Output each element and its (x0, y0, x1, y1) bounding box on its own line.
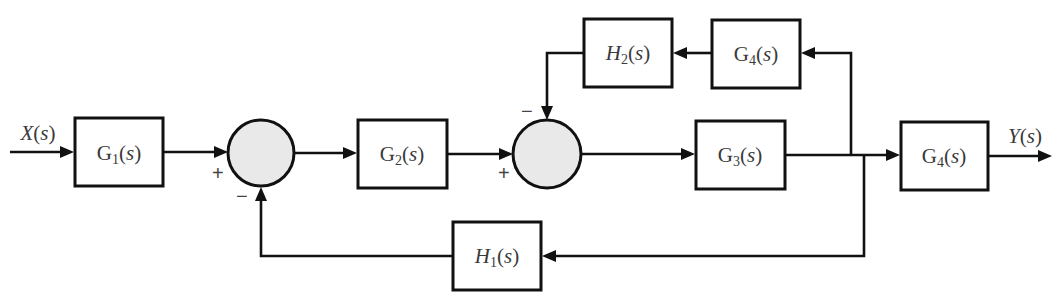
wire-branch-g4fb (812, 53, 851, 155)
block-g3: G3(s) (696, 121, 785, 189)
sign-plus: + (212, 162, 224, 184)
block-g2: G2(s) (358, 120, 447, 188)
output-label: Y(s) (1008, 124, 1042, 148)
sign-plus: + (498, 162, 510, 184)
block-g4-feedback: G4(s) (712, 20, 800, 88)
svg-text:G4(s): G4(s) (734, 42, 778, 68)
arrow-head-icon (673, 47, 687, 59)
svg-text:G4(s): G4(s) (922, 144, 966, 170)
arrow-head-icon (542, 250, 556, 262)
arrow-head-icon (214, 146, 228, 158)
svg-text:G3(s): G3(s) (718, 143, 762, 169)
svg-text:H1(s): H1(s) (474, 244, 519, 270)
sign-minus: − (521, 100, 533, 122)
block-h2: H2(s) (584, 19, 672, 87)
summing-junction-1: + − (212, 120, 294, 207)
block-h1: H1(s) (453, 222, 541, 290)
block-diagram: + − + − G1(s) G2(s) G3(s) G4(s) (0, 0, 1060, 301)
wire-h2-s2 (547, 53, 584, 110)
svg-text:G2(s): G2(s) (380, 142, 424, 168)
arrow-head-icon (499, 148, 513, 160)
arrow-head-icon (886, 149, 900, 161)
arrow-head-icon (255, 187, 267, 201)
sign-minus: − (236, 185, 248, 207)
arrow-head-icon (801, 47, 815, 59)
arrow-head-icon (60, 146, 74, 158)
svg-text:H2(s): H2(s) (605, 41, 650, 67)
wire-h1-s1 (261, 197, 453, 256)
block-g4-output: G4(s) (901, 122, 988, 190)
summing-junction-2: + − (498, 100, 581, 188)
arrow-head-icon (681, 148, 695, 160)
svg-text:G1(s): G1(s) (97, 141, 141, 167)
arrow-head-icon (343, 147, 357, 159)
arrow-head-icon (1038, 150, 1052, 162)
input-label: X(s) (19, 121, 55, 145)
block-g1: G1(s) (75, 118, 163, 186)
arrow-head-icon (541, 106, 553, 120)
